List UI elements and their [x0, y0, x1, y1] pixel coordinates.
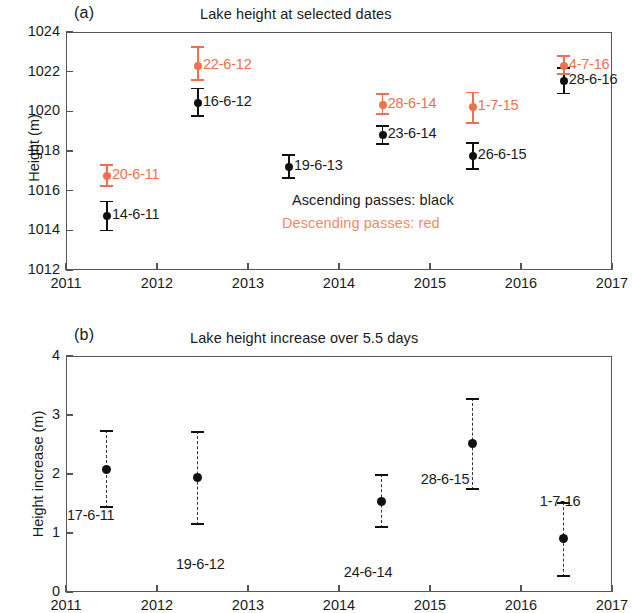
- y-tick-label: 1014: [4, 221, 60, 237]
- errorbar-cap-bottom: [557, 73, 570, 75]
- data-point-marker: [193, 473, 202, 482]
- data-point-label: 28-6-15: [421, 471, 470, 487]
- x-tick: [156, 263, 158, 270]
- errorbar-cap-bottom: [191, 79, 204, 81]
- x-tick-label: 2012: [129, 275, 185, 291]
- y-tick-label: 0: [4, 583, 60, 599]
- panel-a-letter: (a): [74, 4, 94, 22]
- errorbar-cap-top: [466, 142, 479, 144]
- data-point-label: 4-7-16: [569, 56, 610, 72]
- data-point-label: 16-6-12: [203, 93, 252, 109]
- panel-b-letter: (b): [74, 326, 94, 344]
- data-point-marker: [468, 439, 477, 448]
- errorbar-cap-bottom: [191, 115, 204, 117]
- errorbar-cap-bottom: [100, 185, 113, 187]
- data-point-label: 23-6-14: [388, 125, 437, 141]
- errorbar-cap-bottom: [100, 230, 113, 232]
- y-tick-label: 4: [4, 347, 60, 363]
- y-tick: [66, 473, 73, 475]
- data-point-marker: [560, 77, 568, 85]
- panel-b-title: Lake height increase over 5.5 days: [190, 330, 418, 346]
- data-point-marker: [377, 497, 386, 506]
- x-tick-label: 2016: [493, 275, 549, 291]
- data-point-label: 28-6-14: [388, 95, 437, 111]
- errorbar-point: [374, 474, 390, 528]
- x-tick-label: 2014: [311, 597, 367, 613]
- errorbar-cap-bottom: [466, 168, 479, 170]
- data-point-label: 26-6-15: [478, 146, 527, 162]
- y-tick: [66, 31, 73, 33]
- data-point-marker: [103, 172, 111, 180]
- errorbar-cap-top: [466, 398, 479, 400]
- y-tick: [66, 532, 73, 534]
- x-tick-label: 2015: [402, 275, 458, 291]
- x-tick-label: 2016: [493, 597, 549, 613]
- errorbar-cap-bottom: [375, 526, 388, 528]
- x-tick-label: 2012: [129, 597, 185, 613]
- x-tick-label: 2013: [220, 275, 276, 291]
- x-tick: [338, 585, 340, 592]
- x-tick-label: 2014: [311, 275, 367, 291]
- x-tick-label: 2011: [38, 275, 94, 291]
- y-tick-label: 3: [4, 406, 60, 422]
- errorbar-cap-top: [191, 431, 204, 433]
- x-tick-label: 2013: [220, 597, 276, 613]
- legend-ascending: Ascending passes: black: [292, 192, 454, 208]
- y-tick-label: 1024: [4, 23, 60, 39]
- data-point-label: 24-6-14: [344, 564, 393, 580]
- data-point-label: 1-7-15: [478, 97, 519, 113]
- data-point-label: 1-7-16: [540, 493, 581, 509]
- x-tick: [429, 263, 431, 270]
- y-tick-label: 1020: [4, 102, 60, 118]
- panel-a: (a) Lake height at selected dates Height…: [0, 0, 622, 305]
- errorbar-cap-top: [191, 46, 204, 48]
- errorbar-cap-bottom: [557, 93, 570, 95]
- data-point-marker: [194, 99, 202, 107]
- x-tick-label: 2011: [38, 597, 94, 613]
- errorbar-cap-bottom: [557, 575, 570, 577]
- errorbar-cap-top: [191, 88, 204, 90]
- x-tick: [520, 585, 522, 592]
- x-tick-label: 2017: [584, 275, 632, 291]
- data-point-label: 20-6-11: [112, 166, 160, 182]
- errorbar-cap-bottom: [466, 122, 479, 124]
- y-tick: [66, 71, 73, 73]
- data-point-marker: [379, 131, 387, 139]
- data-point-label: 14-6-11: [112, 206, 160, 222]
- errorbar-cap-bottom: [376, 113, 389, 115]
- panel-b: (b) Lake height increase over 5.5 days H…: [0, 308, 622, 613]
- y-tick-label: 1016: [4, 182, 60, 198]
- data-point-marker: [102, 465, 111, 474]
- x-tick: [520, 263, 522, 270]
- y-tick: [66, 414, 73, 416]
- y-tick-label: 1018: [4, 142, 60, 158]
- data-point-label: 19-6-13: [294, 157, 343, 173]
- errorbar-cap-top: [282, 154, 295, 156]
- panel-a-title: Lake height at selected dates: [200, 6, 392, 22]
- data-point-marker: [559, 534, 568, 543]
- data-point-label: 17-6-11: [67, 507, 115, 523]
- y-tick-label: 2: [4, 465, 60, 481]
- x-tick: [611, 585, 613, 592]
- data-point-marker: [469, 103, 477, 111]
- errorbar-cap-bottom: [191, 523, 204, 525]
- legend-descending: Descending passes: red: [282, 215, 440, 231]
- x-tick: [247, 585, 249, 592]
- x-tick: [247, 263, 249, 270]
- errorbar-cap-top: [100, 430, 113, 432]
- y-tick: [66, 591, 73, 593]
- errorbar-cap-top: [100, 201, 113, 203]
- y-tick: [66, 230, 73, 232]
- errorbar-point: [99, 430, 115, 508]
- y-tick: [66, 355, 73, 357]
- x-tick: [611, 263, 613, 270]
- data-point-label: 28-6-16: [569, 71, 618, 87]
- y-tick-label: 1: [4, 524, 60, 540]
- data-point-marker: [560, 62, 568, 70]
- x-tick: [156, 585, 158, 592]
- errorbar-point: [190, 431, 206, 525]
- errorbar-cap-bottom: [282, 177, 295, 179]
- errorbar-cap-top: [375, 474, 388, 476]
- data-point-marker: [194, 62, 202, 70]
